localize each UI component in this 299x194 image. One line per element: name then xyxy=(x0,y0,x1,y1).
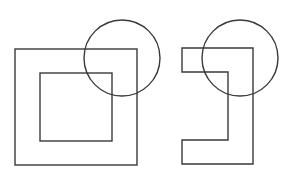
inner-square xyxy=(40,73,112,141)
figure-left-square-frame xyxy=(15,20,160,165)
bracket-polygon xyxy=(182,48,253,164)
outer-square xyxy=(15,49,137,165)
figure-right-bracket-shape xyxy=(182,20,278,164)
overlap-circle-right xyxy=(202,20,278,96)
diagram-canvas xyxy=(0,0,299,194)
overlap-circle-left xyxy=(84,20,160,96)
